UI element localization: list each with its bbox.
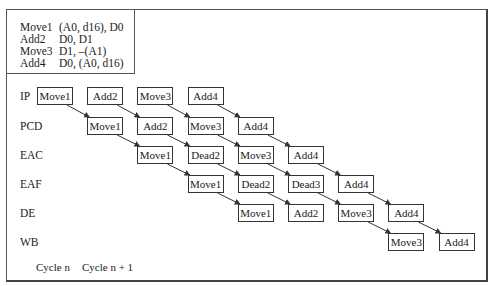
- flow-arrow: [268, 193, 290, 204]
- pipeline-cell: Move1: [37, 87, 73, 105]
- flow-arrow: [117, 105, 139, 117]
- pipeline-cell: Add4: [238, 117, 274, 135]
- pipeline-cell: Add4: [288, 146, 324, 164]
- pipeline-cell: Add4: [338, 175, 374, 193]
- flow-arrow: [218, 164, 240, 175]
- pipeline-cell: Add4: [188, 87, 224, 105]
- stage-label-eac: EAC: [20, 149, 43, 161]
- flow-arrow: [218, 135, 240, 146]
- flow-arrow: [117, 135, 139, 146]
- flow-arrow: [368, 222, 390, 233]
- pipeline-cell: Move1: [87, 117, 123, 135]
- flow-arrow: [318, 164, 340, 175]
- flow-arrow: [218, 105, 240, 117]
- flow-arrow: [418, 222, 440, 233]
- pipeline-cell: Add2: [288, 204, 324, 222]
- pipeline-cell: Move3: [238, 146, 274, 164]
- pipeline-cell: Move3: [338, 204, 374, 222]
- flow-arrow: [368, 193, 390, 204]
- pipeline-cell: Move1: [137, 146, 173, 164]
- flow-arrow: [167, 105, 189, 117]
- pipeline-cell: Add2: [87, 87, 123, 105]
- pipeline-cell: Dead2: [188, 146, 224, 164]
- pipeline-cell: Move1: [188, 175, 224, 193]
- flow-arrow: [268, 164, 290, 175]
- flow-arrow: [167, 135, 189, 146]
- pipeline-cell: Move3: [137, 87, 173, 105]
- pipeline-cell: Move1: [238, 204, 274, 222]
- flow-arrow: [268, 135, 290, 146]
- pipeline-cell: Add2: [137, 117, 173, 135]
- stage-label-eaf: EAF: [20, 178, 42, 190]
- flow-arrow: [218, 193, 240, 204]
- pipeline-cell: Move3: [188, 117, 224, 135]
- pipeline-cell: Dead3: [288, 175, 324, 193]
- cycle-n-plus-1-label: Cycle n + 1: [82, 261, 133, 273]
- stage-label-wb: WB: [20, 236, 39, 248]
- stage-label-de: DE: [20, 207, 35, 219]
- pipeline-cell: Dead2: [238, 175, 274, 193]
- flow-arrow: [167, 164, 189, 175]
- flow-arrow: [67, 105, 89, 117]
- pipeline-cell: Add4: [388, 204, 424, 222]
- stage-label-ip: IP: [20, 90, 30, 102]
- cycle-n-label: Cycle n: [36, 261, 70, 273]
- pipeline-cell: Move3: [388, 233, 424, 251]
- pipeline-cell: Add4: [439, 233, 475, 251]
- stage-label-pcd: PCD: [20, 120, 42, 132]
- flow-arrow: [318, 193, 340, 204]
